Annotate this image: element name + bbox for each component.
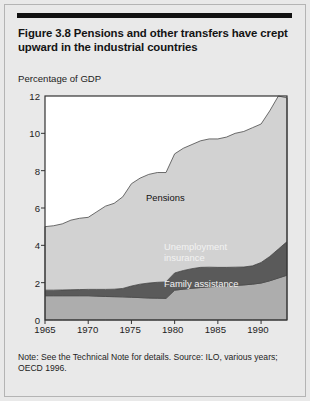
stacked-area-chart <box>18 88 293 338</box>
title-rule <box>17 13 292 18</box>
series-label-pensions: Pensions <box>146 192 185 204</box>
series-label-family-assistance: Family assistance <box>164 278 239 290</box>
chart-plot-area: 12 10 8 6 4 2 0 1965 1970 1975 1980 1985… <box>18 88 293 338</box>
series-label-unemployment-line1: Unemployment <box>164 241 227 253</box>
figure-note: Note: See the Technical Note for details… <box>18 352 288 375</box>
figure-card: Figure 3.8 Pensions and other transfers … <box>0 0 310 401</box>
y-axis-unit-label: Percentage of GDP <box>18 73 101 84</box>
page-title: Figure 3.8 Pensions and other transfers … <box>18 26 293 54</box>
series-label-unemployment-line2: insurance <box>164 252 205 264</box>
